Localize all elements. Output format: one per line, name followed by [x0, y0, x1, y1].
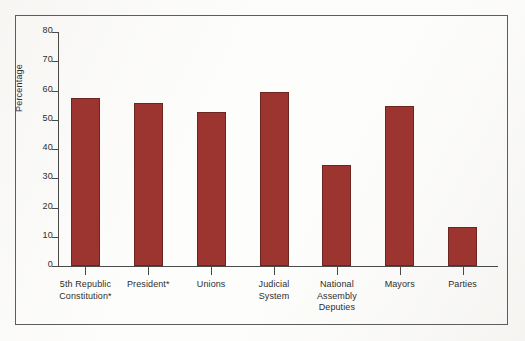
x-tick-mark: [274, 266, 275, 275]
x-tick-label-line: Constitution*: [43, 291, 127, 303]
y-axis-title: Percentage: [14, 64, 24, 112]
y-tick-label: 30: [43, 171, 53, 181]
chart-figure: Percentage 80706050403020100 5th Republi…: [0, 0, 525, 341]
bar: [385, 106, 414, 266]
bar: [448, 227, 477, 266]
y-tick-label: 80: [43, 25, 53, 35]
bar: [71, 98, 100, 266]
x-tick-mark: [337, 266, 338, 275]
y-axis-line: [58, 32, 59, 266]
bar: [197, 112, 226, 266]
x-tick-mark: [148, 266, 149, 275]
x-tick-mark: [400, 266, 401, 275]
y-tick-label: 40: [43, 142, 53, 152]
y-tick-label: 0: [48, 259, 53, 269]
plot-area: 80706050403020100 5th RepublicConstituti…: [58, 32, 498, 266]
x-tick-mark: [211, 266, 212, 275]
y-tick-label: 20: [43, 201, 53, 211]
x-tick-label-line: Parties: [421, 279, 505, 291]
y-tick-label: 60: [43, 84, 53, 94]
x-tick-label: Parties: [421, 279, 505, 291]
y-tick-label: 10: [43, 230, 53, 240]
x-tick-label-line: Assembly: [295, 291, 379, 303]
y-tick-label: 70: [43, 54, 53, 64]
x-tick-mark: [85, 266, 86, 275]
x-axis-line: [58, 266, 498, 267]
x-tick-label-line: Deputies: [295, 302, 379, 314]
bar: [322, 165, 351, 266]
y-tick-label: 50: [43, 113, 53, 123]
bar: [260, 92, 289, 266]
bar: [134, 103, 163, 266]
x-tick-mark: [463, 266, 464, 275]
